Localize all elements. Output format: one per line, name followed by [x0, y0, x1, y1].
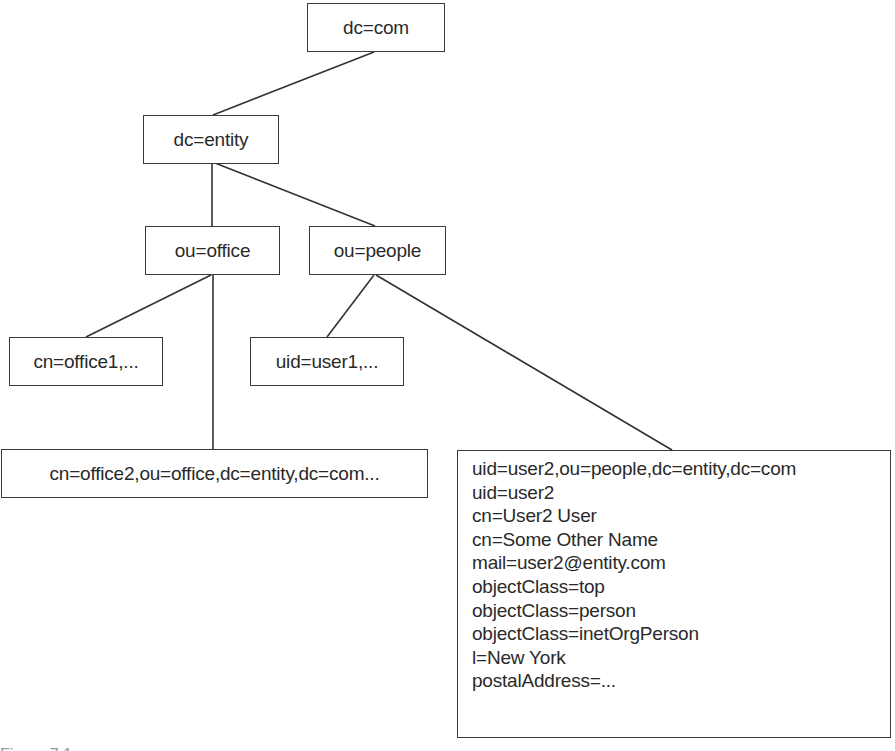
entry-attribute: cn=User2 User: [472, 504, 890, 528]
entry-attribute: l=New York: [472, 646, 890, 670]
node-label: cn=office2,ou=office,dc=entity,dc=com...: [50, 463, 380, 485]
node-label: ou=office: [175, 240, 251, 262]
entry-attribute: objectClass=top: [472, 575, 890, 599]
edge-people-user1: [327, 275, 374, 337]
node-uid-user1: uid=user1,...: [250, 337, 404, 386]
node-ou-people: ou=people: [309, 226, 446, 275]
node-label: dc=com: [343, 17, 409, 39]
edge-office-office1: [86, 275, 211, 337]
edge-com-entity: [213, 52, 374, 115]
entry-attribute: uid=user2: [472, 481, 890, 505]
entry-attribute: objectClass=person: [472, 599, 890, 623]
edge-entity-people: [215, 163, 375, 226]
node-ou-office: ou=office: [145, 226, 280, 275]
entry-attribute: postalAddress=...: [472, 669, 890, 693]
node-uid-user2-entry: uid=user2,ou=people,dc=entity,dc=com uid…: [457, 450, 891, 738]
node-label: dc=entity: [174, 129, 249, 151]
figure-caption: Figure 7.1: [0, 744, 72, 751]
node-label: uid=user1,...: [276, 351, 379, 373]
entry-attribute: objectClass=inetOrgPerson: [472, 622, 890, 646]
node-label: ou=people: [334, 240, 422, 262]
node-cn-office1: cn=office1,...: [9, 337, 163, 386]
node-dc-entity: dc=entity: [143, 115, 279, 164]
node-cn-office2: cn=office2,ou=office,dc=entity,dc=com...: [1, 449, 428, 498]
entry-dn: uid=user2,ou=people,dc=entity,dc=com: [472, 457, 890, 481]
node-dc-com: dc=com: [307, 3, 445, 52]
node-label: cn=office1,...: [33, 351, 138, 373]
entry-attribute: cn=Some Other Name: [472, 528, 890, 552]
entry-attribute: mail=user2@entity.com: [472, 551, 890, 575]
edge-people-user2: [376, 275, 672, 450]
